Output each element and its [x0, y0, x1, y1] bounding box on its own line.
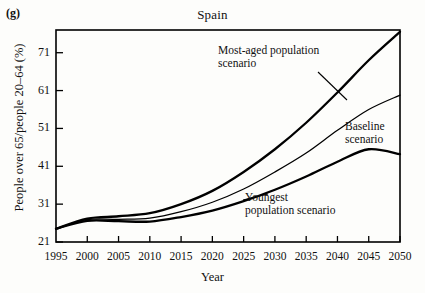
y-tick-label: 61 — [24, 83, 50, 98]
annotation-most-aged-line1: Most-aged population — [218, 44, 319, 57]
annotation-youngest: Youngest population scenario — [245, 191, 335, 217]
annotation-youngest-line1: Youngest — [245, 191, 335, 204]
y-tick-label: 71 — [24, 45, 50, 60]
annotation-most-aged: Most-aged population scenario — [218, 44, 319, 70]
annotation-youngest-line2: population scenario — [245, 204, 335, 217]
x-tick-marks — [87, 236, 400, 242]
y-tick-label: 21 — [24, 234, 50, 249]
y-tick-marks — [56, 53, 63, 242]
figure-container: (g) Spain People over 65/people 20–64 (%… — [0, 0, 425, 293]
annotation-most-aged-line2: scenario — [218, 57, 319, 70]
annotation-baseline-line2: scenario — [345, 133, 385, 146]
y-tick-label: 41 — [24, 158, 50, 173]
annotation-baseline-line1: Baseline — [345, 120, 385, 133]
x-tick-label: 2050 — [380, 250, 420, 262]
y-tick-label: 51 — [24, 120, 50, 135]
y-tick-label: 31 — [24, 196, 50, 211]
annotation-baseline: Baseline scenario — [345, 120, 385, 146]
curve-baseline-scenario — [56, 95, 400, 229]
